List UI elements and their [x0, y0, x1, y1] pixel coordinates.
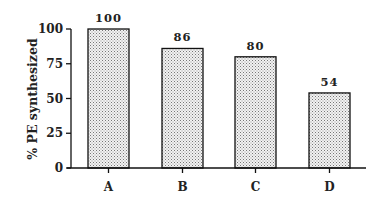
y-tick-label: 25	[46, 126, 63, 140]
y-axis-title: % PE synthesized	[25, 38, 40, 160]
y-tick-label: 75	[46, 57, 63, 71]
x-category-label: A	[103, 180, 114, 194]
bar-D	[309, 93, 350, 168]
x-category-label: D	[324, 180, 334, 194]
y-tick-label: 100	[38, 22, 63, 36]
y-ticks: 0255075100	[38, 22, 71, 175]
bar-C	[235, 57, 276, 168]
y-tick-label: 50	[46, 92, 63, 106]
x-category-label: B	[177, 180, 187, 194]
x-category-label: C	[251, 180, 261, 194]
y-tick-label: 0	[55, 161, 63, 175]
x-ticks: ABCD	[103, 168, 335, 194]
bar-value-label: 80	[246, 39, 264, 53]
bar-value-label: 54	[320, 75, 338, 89]
bar-B	[162, 48, 203, 168]
bar-A	[88, 29, 129, 168]
bars: 100868054	[88, 11, 350, 168]
bar-value-label: 100	[95, 11, 122, 25]
bar-chart: % PE synthesized 0255075100 100868054 AB…	[0, 0, 383, 204]
bar-value-label: 86	[173, 30, 191, 44]
